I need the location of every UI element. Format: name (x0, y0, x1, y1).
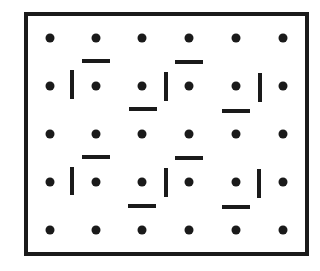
dot-r2-c4 (185, 82, 194, 91)
dot-r3-c4 (185, 130, 194, 139)
dot-r4-c1 (46, 178, 55, 187)
dot-r5-c1 (46, 226, 55, 235)
dot-r2-c6 (279, 82, 288, 91)
dot-r1-c3 (138, 34, 147, 43)
dot-r2-c1 (46, 82, 55, 91)
dot-r3-c3 (138, 130, 147, 139)
dot-r5-c2 (92, 226, 101, 235)
dot-r1-c6 (279, 34, 288, 43)
dot-r4-c4 (185, 178, 194, 187)
dot-r5-c5 (232, 226, 241, 235)
dot-r3-c6 (279, 130, 288, 139)
dot-r1-c1 (46, 34, 55, 43)
dot-r5-c6 (279, 226, 288, 235)
dot-r2-c5 (232, 82, 241, 91)
dot-r5-c3 (138, 226, 147, 235)
dot-r4-c6 (279, 178, 288, 187)
dot-r4-c3 (138, 178, 147, 187)
dot-r4-c2 (92, 178, 101, 187)
dot-r3-c1 (46, 130, 55, 139)
dot-r4-c5 (232, 178, 241, 187)
dot-r5-c4 (185, 226, 194, 235)
dot-r1-c5 (232, 34, 241, 43)
dot-r1-c2 (92, 34, 101, 43)
dot-r2-c2 (92, 82, 101, 91)
dot-r3-c5 (232, 130, 241, 139)
dot-r3-c2 (92, 130, 101, 139)
dot-r1-c4 (185, 34, 194, 43)
dot-grid-diagram (0, 0, 320, 271)
dot-r2-c3 (138, 82, 147, 91)
